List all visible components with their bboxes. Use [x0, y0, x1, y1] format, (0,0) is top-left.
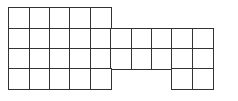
grid-cell-r1-c4 [90, 28, 112, 50]
grid-cell-r1-c0 [8, 28, 30, 50]
grid-cell-r3-c4 [90, 68, 112, 90]
grid-cell-r2-c0 [8, 48, 30, 70]
grid-cell-r2-c8 [171, 48, 193, 70]
grid-cell-r2-c5 [110, 48, 132, 70]
grid-cell-r1-c6 [131, 28, 153, 50]
grid-diagram [0, 0, 238, 101]
grid-cell-r1-c5 [110, 28, 132, 50]
grid-cell-r1-c3 [69, 28, 91, 50]
grid-cell-r3-c8 [171, 68, 193, 90]
grid-cell-r3-c1 [29, 68, 51, 90]
grid-cell-r2-c2 [49, 48, 71, 70]
grid-cell-r0-c0 [8, 7, 30, 29]
grid-cell-r3-c2 [49, 68, 71, 90]
grid-cell-r2-c4 [90, 48, 112, 70]
grid-cell-r1-c1 [29, 28, 51, 50]
grid-cell-r1-c2 [49, 28, 71, 50]
grid-cell-r2-c1 [29, 48, 51, 70]
grid-cell-r2-c3 [69, 48, 91, 70]
grid-cell-r0-c2 [49, 7, 71, 29]
grid-cell-r1-c8 [171, 28, 193, 50]
grid-cell-r3-c0 [8, 68, 30, 90]
grid-cell-r0-c1 [29, 7, 51, 29]
grid-cell-r0-c4 [90, 7, 112, 29]
grid-cell-r3-c9 [192, 68, 214, 90]
grid-cell-r0-c3 [69, 7, 91, 29]
grid-cell-r1-c7 [151, 28, 173, 50]
grid-cell-r1-c9 [192, 28, 214, 50]
grid-cell-r2-c9 [192, 48, 214, 70]
grid-cell-r2-c6 [131, 48, 153, 70]
grid-cell-r2-c7 [151, 48, 173, 70]
grid-cell-r3-c3 [69, 68, 91, 90]
